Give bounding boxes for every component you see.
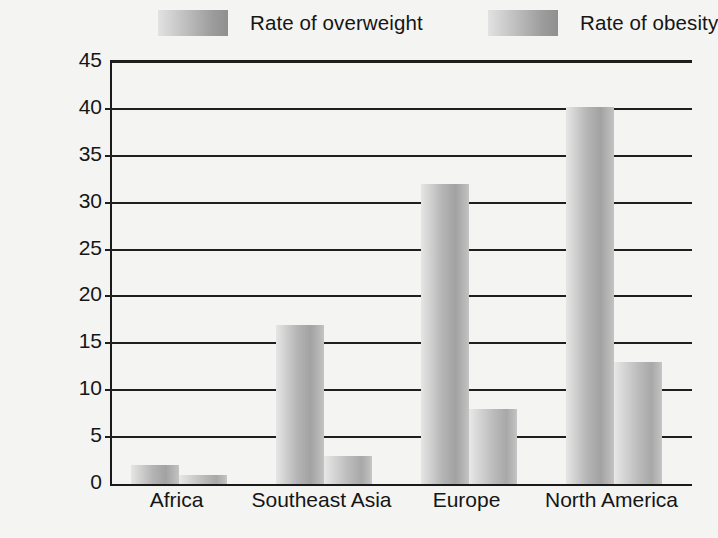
bar-overweight [566,107,614,484]
y-axis-tick [105,295,112,297]
x-axis-tick-label: North America [545,488,678,512]
y-axis-tick [105,155,112,157]
plot-area [110,60,692,486]
legend-item-overweight: Rate of overweight [158,10,423,36]
bar-obesity [324,456,372,484]
y-axis-tick-label: 45 [79,48,102,72]
x-axis-tick-label: Africa [150,488,204,512]
legend-label-overweight: Rate of overweight [250,11,423,35]
legend-swatch-overweight [158,10,228,36]
bar-obesity [179,475,227,484]
bar-overweight [421,184,469,484]
y-axis-tick-labels: 051015202530354045 [0,60,102,482]
y-axis-tick-label: 25 [79,236,102,260]
y-axis-tick [105,108,112,110]
y-axis-tick-label: 40 [79,95,102,119]
bar-series-layer [112,62,692,484]
bar-obesity [469,409,517,484]
legend-label-obesity: Rate of obesity [580,11,718,35]
y-axis-tick [105,389,112,391]
legend-swatch-obesity [488,10,558,36]
bar-overweight [131,465,179,484]
bar-overweight [276,325,324,484]
legend-item-obesity: Rate of obesity [488,10,718,36]
y-axis-tick-label: 5 [90,423,102,447]
y-axis-tick [105,249,112,251]
y-axis-tick-label: 10 [79,376,102,400]
y-axis-tick-label: 35 [79,142,102,166]
x-axis-tick-label: Southeast Asia [251,488,391,512]
bar-obesity [614,362,662,484]
y-axis-tick [105,202,112,204]
y-axis-tick-label: 30 [79,189,102,213]
y-axis-tick-label: 0 [90,470,102,494]
x-axis-tick-label: Europe [433,488,501,512]
y-axis-tick [105,436,112,438]
y-axis-tick [105,342,112,344]
chart-legend: Rate of overweight Rate of obesity [0,6,699,46]
y-axis-tick-label: 20 [79,282,102,306]
y-axis-tick-label: 15 [79,329,102,353]
x-axis-tick-labels: AfricaSoutheast AsiaEuropeNorth America [110,488,690,528]
